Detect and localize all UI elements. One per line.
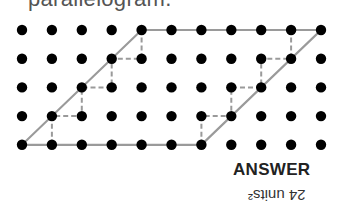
grid-dot (316, 25, 326, 35)
grid-dot (316, 140, 326, 150)
grid-dot (107, 111, 117, 121)
grid-dot (286, 140, 296, 150)
grid-dot (196, 25, 206, 35)
grid-dot (17, 111, 27, 121)
dot-grid-diagram (0, 0, 340, 216)
grid-dot (316, 111, 326, 121)
grid-dot (226, 111, 236, 121)
grid-dot (256, 54, 266, 64)
dashed-staircase (201, 30, 291, 145)
grid-dot (77, 140, 87, 150)
grid-dot (17, 25, 27, 35)
grid-dot (196, 140, 206, 150)
grid-dot (256, 82, 266, 92)
grid-dot (286, 82, 296, 92)
grid-dot (196, 82, 206, 92)
grid-dot (136, 111, 146, 121)
grid-dot (196, 111, 206, 121)
grid-dot (226, 54, 236, 64)
grid-dot (166, 25, 176, 35)
grid-dot (107, 54, 117, 64)
grid-dot (17, 54, 27, 64)
answer-value: 24 units² (248, 187, 306, 204)
grid-dot (226, 82, 236, 92)
grid-dot (77, 54, 87, 64)
grid-dot (77, 111, 87, 121)
grid-dot (107, 25, 117, 35)
grid-dot (47, 140, 57, 150)
grid-dot (136, 54, 146, 64)
grid-dot (196, 54, 206, 64)
grid-dot (256, 140, 266, 150)
grid-dot (17, 82, 27, 92)
grid-dot (77, 25, 87, 35)
grid-dot (47, 54, 57, 64)
grid-dot (166, 140, 176, 150)
grid-dot (286, 111, 296, 121)
grid-dot (136, 140, 146, 150)
grid-dot (17, 140, 27, 150)
grid-dot (166, 54, 176, 64)
grid-dot (107, 82, 117, 92)
grid-dot (286, 25, 296, 35)
grid-dot (286, 54, 296, 64)
grid-dot (77, 82, 87, 92)
grid-dot (107, 140, 117, 150)
grid-dot (47, 25, 57, 35)
grid-dot (47, 111, 57, 121)
grid-dot (226, 140, 236, 150)
answer-label: ANSWER (233, 160, 310, 180)
grid-dot (316, 54, 326, 64)
grid-dot (256, 25, 266, 35)
grid-dot (166, 111, 176, 121)
grid-dot (226, 25, 236, 35)
dashed-staircase (52, 30, 142, 145)
grid-dot (256, 111, 266, 121)
grid-dot (136, 25, 146, 35)
grid-dot (47, 82, 57, 92)
grid-dot (136, 82, 146, 92)
grid-dot (316, 82, 326, 92)
grid-dot (166, 82, 176, 92)
